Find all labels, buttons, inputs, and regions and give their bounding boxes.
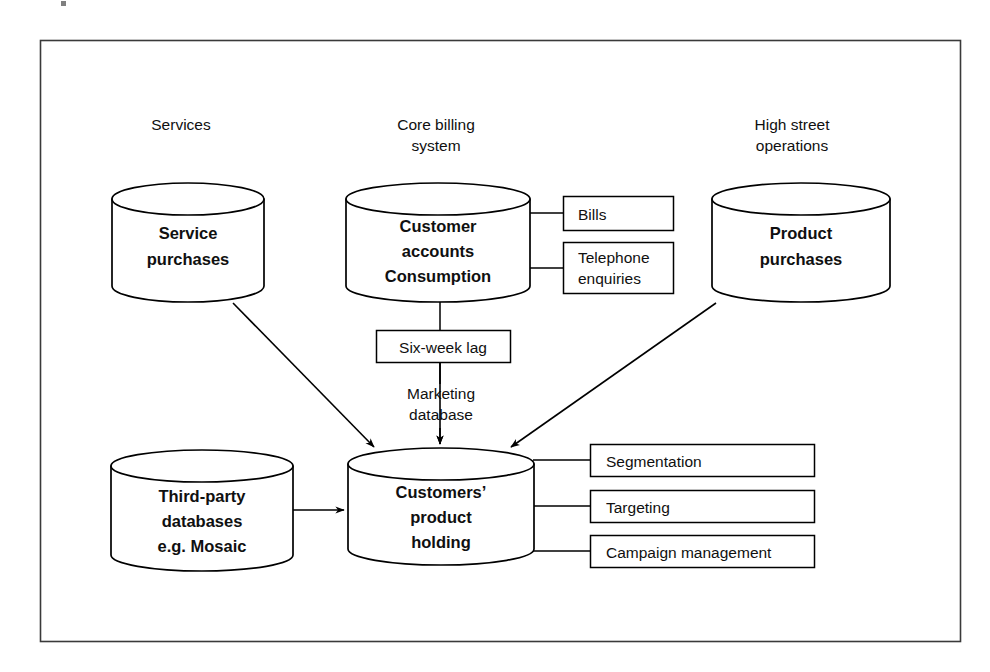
holding-cylinder-top [348, 448, 534, 480]
edge-label-marketing-database: Marketing database [393, 384, 489, 428]
telephone-box-line1: Telephone [578, 249, 650, 266]
holding-line-2: product [410, 508, 472, 526]
customer-accounts-line-3: Consumption [385, 267, 491, 285]
service-purchases-line-2: purchases [147, 250, 230, 268]
process-box-bills[interactable]: Bills [564, 197, 674, 231]
customer-accounts-line-1: Customer [399, 217, 477, 235]
campaign-box-label: Campaign management [606, 544, 772, 561]
group-label-services: Services [151, 116, 211, 133]
group-label-high-street-line2: operations [756, 137, 829, 154]
product-purchases-cylinder-top [712, 183, 890, 215]
data-store-customer-accounts[interactable]: Customer accounts Consumption [346, 183, 530, 302]
process-box-telephone-enquiries[interactable]: Telephone enquiries [564, 243, 674, 294]
arrow-product-purchases-to-holding [511, 303, 716, 447]
data-store-product-purchases[interactable]: Product purchases [712, 183, 890, 302]
group-label-high-street-line1: High street [755, 116, 831, 133]
data-store-customers-product-holding[interactable]: Customers’ product holding [348, 448, 534, 565]
group-label-core-billing-line1: Core billing [397, 116, 475, 133]
group-label-core-billing: Core billing system [397, 116, 475, 154]
third-party-line-1: Third-party [158, 487, 246, 505]
process-box-targeting[interactable]: Targeting [591, 491, 815, 523]
data-store-service-purchases[interactable]: Service purchases [112, 183, 264, 302]
process-box-campaign-management[interactable]: Campaign management [591, 536, 815, 568]
customer-accounts-cylinder-top [346, 183, 530, 215]
service-purchases-line-1: Service [159, 224, 218, 242]
marketing-database-line2: database [409, 406, 473, 423]
process-box-six-week-lag[interactable]: Six-week lag [377, 331, 511, 363]
group-label-core-billing-line2: system [411, 137, 460, 154]
third-party-line-2: databases [162, 512, 243, 530]
third-party-line-3: e.g. Mosaic [158, 537, 247, 555]
bills-box-label: Bills [578, 206, 607, 223]
marketing-database-line1: Marketing [407, 385, 475, 402]
group-label-services-text: Services [151, 116, 211, 133]
six-week-lag-box-label: Six-week lag [399, 339, 487, 356]
third-party-cylinder-top [111, 450, 293, 482]
process-box-segmentation[interactable]: Segmentation [591, 445, 815, 477]
service-purchases-cylinder-top [112, 183, 264, 215]
scan-artifact [61, 1, 66, 6]
product-purchases-line-1: Product [770, 224, 833, 242]
segmentation-box-label: Segmentation [606, 453, 702, 470]
product-purchases-line-2: purchases [760, 250, 843, 268]
telephone-box-line2: enquiries [578, 270, 641, 287]
holding-line-3: holding [411, 533, 471, 551]
group-label-high-street: High street operations [755, 116, 831, 154]
data-store-third-party-databases[interactable]: Third-party databases e.g. Mosaic [111, 450, 293, 571]
diagram-canvas: Services Core billing system High street… [0, 0, 990, 672]
customer-accounts-line-2: accounts [402, 242, 474, 260]
holding-line-1: Customers’ [396, 483, 487, 501]
targeting-box-label: Targeting [606, 499, 670, 516]
arrow-service-purchases-to-holding [233, 303, 374, 447]
